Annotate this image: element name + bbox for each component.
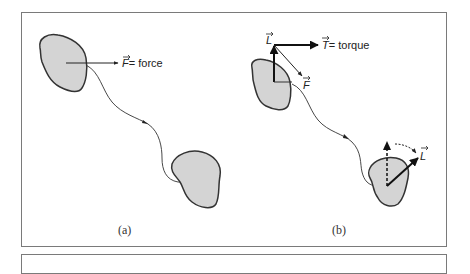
caption-b: (b) (332, 223, 346, 237)
caption-a: (a) (118, 223, 131, 237)
panel-b: L T= torque F L (b) (252, 32, 428, 237)
rigid-body-start-b (252, 59, 291, 110)
panel-a: F= force (a) (40, 35, 221, 237)
trajectory-midpoint-arrow-a (142, 120, 148, 124)
force-label: = force (129, 57, 163, 69)
rigid-body-end (172, 151, 221, 207)
final-angular-momentum-symbol: L (420, 150, 426, 162)
rigid-body-end-b (369, 157, 409, 206)
dashed-arrow-head (383, 141, 391, 150)
rotation-arc-arrow (395, 144, 416, 153)
svg-text:T= torque: T= torque (322, 39, 369, 51)
force-symbol-b: F (303, 79, 311, 91)
torque-label: = torque (329, 39, 370, 51)
trajectory-midpoint-arrow-b (343, 134, 349, 139)
